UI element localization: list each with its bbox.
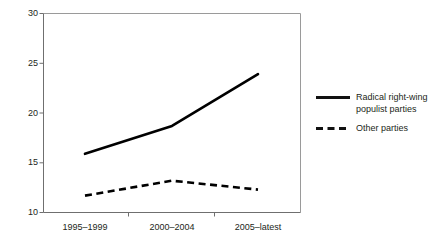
legend-label-other-parties: Other parties [356,123,442,135]
y-axis-ticks [40,14,44,213]
y-tick-label-25: 25 [16,59,38,68]
x-axis-ticks [129,213,215,217]
series-line-radical-right-wing-populist-parties [85,74,258,154]
y-tick-label-10: 10 [16,208,38,217]
series-line-other-parties [85,181,258,196]
y-tick-label-30: 30 [16,9,38,18]
y-tick-label-15: 15 [16,158,38,167]
x-tick-label-2000-2004: 2000–2004 [127,223,217,232]
x-tick-label-2005-latest: 2005–latest [213,223,303,232]
axis-frame [44,14,301,213]
legend-label-radical-right-wing-populist-parties: Radical right-wing populist parties [356,92,442,115]
chart-figure: 30 25 20 15 10 1995–1999 2000–2004 2005–… [0,0,444,248]
y-tick-label-20: 20 [16,109,38,118]
x-tick-label-1995-1999: 1995–1999 [40,223,130,232]
